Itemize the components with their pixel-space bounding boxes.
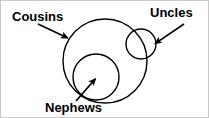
uncles-arrow-icon	[155, 24, 184, 44]
set-label-cousins: Cousins	[12, 10, 63, 23]
set-circle-cousins	[63, 19, 147, 103]
cousins-arrow-icon	[38, 24, 68, 38]
set-label-uncles: Uncles	[150, 6, 193, 19]
set-label-nephews: Nephews	[45, 101, 102, 114]
set-circle-nephews	[73, 54, 119, 100]
set-circle-uncles	[126, 29, 156, 59]
venn-diagram-figure: Cousins Uncles Nephews	[0, 0, 209, 118]
